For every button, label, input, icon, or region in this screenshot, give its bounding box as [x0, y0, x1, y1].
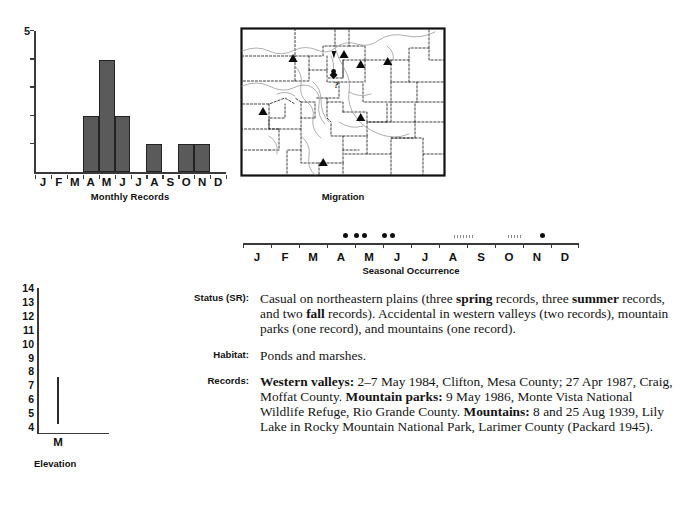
- monthly-month-label: O: [179, 176, 193, 188]
- elevation-tick-label: 5: [12, 408, 34, 418]
- elevation-tick-label: 6: [12, 394, 34, 404]
- elevation-caption: Elevation: [34, 458, 76, 469]
- monthly-y-tick: [30, 30, 34, 31]
- seasonal-record-dot: [362, 233, 367, 238]
- monthly-y-tick: [30, 143, 34, 144]
- seasonal-axis-tick: [411, 243, 412, 248]
- monthly-month-label: A: [147, 176, 161, 188]
- seasonal-occurrence-chart: JFMAMJJASOND Seasonal Occurrence: [243, 228, 583, 274]
- bar: [83, 116, 99, 172]
- monthly-plot-area: [34, 31, 226, 174]
- elevation-plot-area: M: [37, 288, 109, 434]
- seasonal-month-label: O: [501, 251, 517, 264]
- monthly-month-label: N: [195, 176, 209, 188]
- seasonal-axis-tick: [243, 243, 244, 248]
- monthly-month-label: M: [100, 176, 114, 188]
- seasonal-axis-tick: [439, 243, 440, 248]
- seasonal-hatch-span: [454, 235, 474, 238]
- elevation-tick-label: 9: [12, 353, 34, 363]
- monthly-y-tick: [30, 86, 34, 87]
- account-entry-row: Habitat:Ponds and marshes.: [183, 348, 675, 363]
- monthly-y-max-label: 5: [14, 26, 30, 37]
- seasonal-month-label: S: [473, 251, 489, 264]
- bar: [178, 144, 194, 172]
- monthly-month-label: M: [68, 176, 82, 188]
- bar: [146, 144, 162, 172]
- elevation-y-axis: [37, 288, 39, 434]
- monthly-month-label: A: [84, 176, 98, 188]
- seasonal-record-dot: [343, 233, 348, 238]
- account-entry-body: Ponds and marshes.: [260, 348, 675, 363]
- seasonal-marks-layer: [243, 228, 579, 242]
- seasonal-axis-tick: [467, 243, 468, 248]
- seasonal-axis-tick: [355, 243, 356, 248]
- seasonal-axis-tick: [327, 243, 328, 248]
- elevation-range-line: [57, 377, 59, 424]
- seasonal-axis-tick: [299, 243, 300, 248]
- elevation-tick-labels: 4567891011121314: [12, 288, 34, 436]
- seasonal-axis: [243, 243, 579, 249]
- seasonal-month-label: F: [277, 251, 293, 264]
- monthly-month-label: D: [211, 176, 225, 188]
- seasonal-month-label: A: [333, 251, 349, 264]
- seasonal-axis-tick: [523, 243, 524, 248]
- seasonal-axis-tick: [383, 243, 384, 248]
- monthly-month-label: J: [131, 176, 145, 188]
- seasonal-month-label: A: [445, 251, 461, 264]
- seasonal-record-dot: [390, 233, 395, 238]
- monthly-month-label: S: [163, 176, 177, 188]
- map-question-mark: ?: [334, 80, 339, 90]
- account-entry-body: Western valleys: 2–7 May 1984, Clifton, …: [260, 374, 675, 435]
- elevation-tick-label: 8: [12, 366, 34, 376]
- monthly-month-label: J: [36, 176, 50, 188]
- colorado-map: ?: [239, 26, 447, 178]
- monthly-bars-layer: [35, 31, 226, 172]
- elevation-tick-label: 11: [12, 325, 34, 335]
- seasonal-hatch-span: [508, 235, 522, 238]
- migration-map-block: ? Migration: [239, 26, 457, 206]
- elevation-tick-label: 12: [12, 311, 34, 321]
- account-entry-row: Status (SR):Casual on northeastern plain…: [183, 291, 675, 337]
- monthly-month-label: F: [52, 176, 66, 188]
- seasonal-month-label: D: [557, 251, 573, 264]
- seasonal-record-dot: [540, 233, 545, 238]
- seasonal-record-dot: [354, 233, 359, 238]
- bar: [115, 116, 131, 172]
- seasonal-occurrence-caption: Seasonal Occurrence: [243, 265, 579, 276]
- elevation-tick-label: 7: [12, 380, 34, 390]
- seasonal-month-labels: JFMAMJJASOND: [243, 251, 579, 265]
- monthly-y-tick: [30, 58, 34, 59]
- monthly-records-caption: Monthly Records: [34, 191, 226, 202]
- elevation-tick-label: 14: [12, 283, 34, 293]
- seasonal-axis-tick: [495, 243, 496, 248]
- migration-map-caption: Migration: [239, 191, 447, 202]
- seasonal-month-label: J: [389, 251, 405, 264]
- elevation-category-label: M: [49, 436, 67, 448]
- monthly-records-chart: 5 JFMAMJJASOND Monthly Records: [14, 26, 229, 201]
- elevation-tick-label: 10: [12, 339, 34, 349]
- monthly-y-tick: [30, 115, 34, 116]
- elevation-x-axis: [37, 433, 109, 435]
- seasonal-axis-tick: [271, 243, 272, 248]
- species-account-text: Status (SR):Casual on northeastern plain…: [183, 291, 675, 446]
- seasonal-month-label: M: [361, 251, 377, 264]
- seasonal-month-label: J: [417, 251, 433, 264]
- account-entry-body: Casual on northeastern plains (three spr…: [260, 291, 675, 337]
- seasonal-month-label: J: [249, 251, 265, 264]
- seasonal-axis-tick: [578, 243, 579, 248]
- account-entry-label: Status (SR):: [183, 291, 260, 306]
- account-entry-label: Habitat:: [183, 348, 260, 363]
- monthly-month-label: J: [116, 176, 130, 188]
- seasonal-record-dot: [382, 233, 387, 238]
- elevation-tick-label: 4: [12, 422, 34, 432]
- elevation-tick-label: 13: [12, 297, 34, 307]
- bar: [99, 60, 115, 173]
- elevation-chart: 4567891011121314 M Elevation: [12, 288, 142, 473]
- monthly-month-labels: JFMAMJJASOND: [34, 176, 227, 190]
- seasonal-axis-tick: [551, 243, 552, 248]
- bar: [194, 144, 210, 172]
- account-entry-label: Records:: [183, 374, 260, 389]
- seasonal-month-label: N: [529, 251, 545, 264]
- account-entry-row: Records:Western valleys: 2–7 May 1984, C…: [183, 374, 675, 435]
- seasonal-month-label: M: [305, 251, 321, 264]
